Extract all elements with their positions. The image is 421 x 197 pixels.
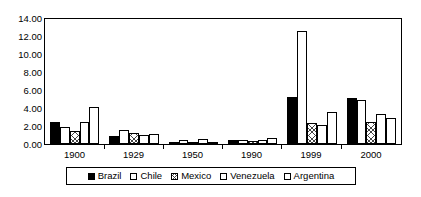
bar xyxy=(50,122,60,144)
bar xyxy=(317,125,327,144)
x-axis-tick-label: 2000 xyxy=(341,149,401,160)
bar xyxy=(70,131,80,144)
bar xyxy=(376,114,386,144)
legend: Brazil Chile Mexico Venezuela Argentina xyxy=(66,167,356,185)
x-axis-tick-label: 1900 xyxy=(45,149,104,160)
legend-label: Argentina xyxy=(294,171,335,181)
y-axis-tick-label: 10.00 xyxy=(2,50,42,60)
bar xyxy=(179,140,189,144)
bar xyxy=(258,140,268,144)
bar xyxy=(149,134,159,144)
bar-chart: 14.00 12.00 10.00 8.00 6.00 4.00 2.00 0.… xyxy=(0,0,421,197)
bar xyxy=(208,142,218,144)
y-axis-tick-label: 0.00 xyxy=(2,140,42,150)
legend-label: Chile xyxy=(140,171,162,181)
bar xyxy=(307,123,317,144)
bar xyxy=(188,142,198,144)
legend-swatch-icon xyxy=(284,173,291,180)
y-axis-labels: 14.00 12.00 10.00 8.00 6.00 4.00 2.00 0.… xyxy=(0,0,42,197)
x-axis-tick-label: 1999 xyxy=(281,149,341,160)
bar xyxy=(357,100,367,144)
bar xyxy=(109,136,119,144)
x-axis-tick-label: 1950 xyxy=(163,149,222,160)
legend-label: Brazil xyxy=(98,171,122,181)
legend-item-chile: Chile xyxy=(130,171,162,181)
y-axis-tick-label: 8.00 xyxy=(2,68,42,78)
bar xyxy=(238,140,248,144)
bar xyxy=(366,122,376,144)
y-axis-tick-label: 14.00 xyxy=(2,14,42,24)
legend-swatch-icon xyxy=(130,173,137,180)
bar xyxy=(129,133,139,144)
legend-label: Venezuela xyxy=(230,171,274,181)
legend-item-brazil: Brazil xyxy=(88,171,122,181)
y-axis-tick-label: 6.00 xyxy=(2,86,42,96)
bar xyxy=(327,112,337,144)
bar xyxy=(297,31,307,144)
bar xyxy=(228,140,238,144)
legend-item-venezuela: Venezuela xyxy=(220,171,274,181)
bar xyxy=(386,118,396,144)
x-axis-tick-label: 1929 xyxy=(104,149,163,160)
legend-item-mexico: Mexico xyxy=(171,171,211,181)
legend-swatch-icon xyxy=(171,173,178,180)
bar xyxy=(169,142,179,144)
bar xyxy=(347,98,357,144)
bar xyxy=(267,138,277,144)
bar xyxy=(60,127,70,144)
legend-item-argentina: Argentina xyxy=(284,171,335,181)
bar xyxy=(119,130,129,144)
legend-label: Mexico xyxy=(181,171,211,181)
legend-swatch-icon xyxy=(220,173,227,180)
bar xyxy=(80,122,90,144)
y-axis-tick-label: 2.00 xyxy=(2,122,42,132)
bar xyxy=(248,141,258,144)
y-axis-tick-label: 4.00 xyxy=(2,104,42,114)
bars-layer xyxy=(45,19,401,144)
bar xyxy=(139,135,149,144)
legend-swatch-icon xyxy=(88,173,95,180)
x-axis-tick-label: 1990 xyxy=(222,149,281,160)
bar xyxy=(287,97,297,144)
y-axis-tick-label: 12.00 xyxy=(2,32,42,42)
bar xyxy=(198,139,208,144)
bar xyxy=(89,107,99,144)
